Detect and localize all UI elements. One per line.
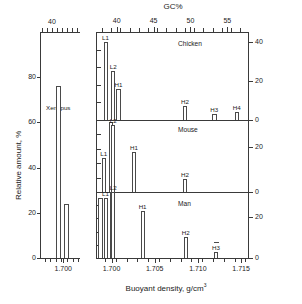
right-gc-major-tick [190,27,191,32]
right-y-tick-label: 0 [255,188,273,195]
left-gc-minor-tick [67,28,68,32]
peak-label: H4 [231,104,243,111]
right-x-minor-tick [224,259,225,262]
left-y-tick [37,77,40,78]
right-y-tick-label: 40 [255,38,273,45]
left-panel-y-axis [40,32,41,258]
right-gc-minor-tick [111,28,112,32]
left-y-tick-label: 20 [20,209,36,216]
peak-bar [102,158,106,192]
left-gc-minor-tick [47,28,48,32]
peak-bar [212,114,216,120]
right-x-major-tick [241,259,242,263]
right-gc-minor-tick [157,28,158,32]
peak-bar [235,112,239,120]
y-axis-title: Relative amount, % [14,131,23,200]
left-panel-bottom-axis [40,258,80,259]
left-gc-minor-tick [77,28,78,32]
left-x-minor-tick [78,259,79,262]
right-gc-minor-tick [213,28,214,32]
left-gc-minor-tick [57,28,58,32]
right-y-minor-tick [97,178,101,179]
subpanel-title-mouse: Mouse [178,127,198,134]
right-gc-minor-tick [102,28,103,32]
left-gc-minor-tick [72,28,73,32]
peak-bar [64,204,69,258]
right-y-tick-label: 20 [255,77,273,84]
man-h3-dash-marker [214,242,219,243]
peak-bar [183,179,187,193]
right-y-minor-tick [97,102,101,103]
left-y-tick [37,258,40,259]
right-gc-minor-tick [203,28,204,32]
left-y-tick [37,213,40,214]
right-x-minor-tick [137,259,138,262]
right-x-major-tick [112,259,113,263]
peak-label: L1 [100,34,112,41]
right-y-minor-tick [97,163,101,164]
peak-bar [111,71,115,120]
left-x-tick-label: 1.700 [49,265,77,272]
right-x-minor-tick [148,259,149,262]
right-x-tick-label: 1.705 [141,265,169,272]
peak-label: H2 [179,171,191,178]
peak-label: H3 [210,244,222,251]
right-gc-minor-tick [130,28,131,32]
peak-bar [116,89,120,120]
right-x-minor-tick [116,259,117,262]
peak-label: H3 [208,106,220,113]
peak-bar [141,211,145,258]
right-y-tick [249,147,253,148]
right-gc-major-tick [117,27,118,32]
peak-label: H2 [180,229,192,236]
right-gc-minor-tick [222,28,223,32]
right-x-major-tick [155,259,156,263]
left-panel-top-axis [40,32,80,33]
left-x-minor-tick [73,259,74,262]
subpanel-title-chicken: Chicken [178,41,202,48]
left-x-minor-tick [50,259,51,262]
x-axis-title-superscript: 3 [204,282,207,288]
left-gc-minor-tick [42,28,43,32]
right-gc-tick-label: 55 [217,17,237,24]
left-x-minor-tick [67,259,68,262]
left-x-minor-tick [61,259,62,262]
top-axis-title: GC% [118,3,228,11]
right-gc-minor-tick [120,28,121,32]
peak-bar [56,86,61,258]
mouse-man-separator [96,192,249,193]
peak-label: H2 [179,98,191,105]
right-gc-minor-tick [139,28,140,32]
right-x-minor-tick [105,259,106,262]
right-gc-minor-tick [148,28,149,32]
left-x-minor-tick [56,259,57,262]
right-panel-bottom-axis [96,258,249,259]
left-gc-minor-tick [62,28,63,32]
right-y-tick [249,217,253,218]
right-y-minor-tick [97,50,101,51]
right-x-minor-tick [202,259,203,262]
right-y-tick [249,258,253,259]
right-x-minor-tick [213,259,214,262]
right-y-tick-label: 20 [255,213,273,220]
figure-root: 0204060801.70040Xenopus1.7001.7051.7101.… [0,0,302,304]
peak-bar [132,152,136,193]
right-y-tick [249,42,253,43]
peak-label: L2 [107,117,119,124]
right-x-minor-tick [181,259,182,262]
right-gc-tick-label: 40 [107,17,127,24]
right-x-minor-tick [127,259,128,262]
right-gc-tick-label: 50 [180,17,200,24]
right-gc-tick-label: 45 [144,17,164,24]
peak-bar [111,125,115,193]
peak-label: H1 [128,144,140,151]
right-x-minor-tick [235,259,236,262]
right-y-minor-tick [97,85,101,86]
peak-label: H1 [112,81,124,88]
right-y-minor-tick [97,134,101,135]
peak-bar [183,106,187,120]
peak-label: L2 [107,184,119,191]
peak-bar [104,198,108,258]
left-y-tick-label: 80 [20,73,36,80]
peak-bar [104,42,108,120]
